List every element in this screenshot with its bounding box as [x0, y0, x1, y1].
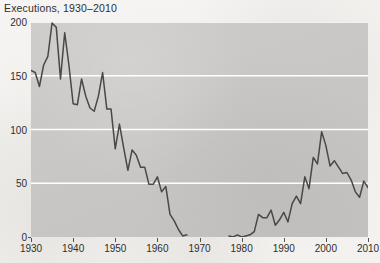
x-axis-tick-1990 [284, 238, 285, 242]
x-axis-label-1980: 1980 [231, 243, 253, 254]
x-axis-tick-2000 [326, 238, 327, 242]
x-axis-label-1970: 1970 [188, 243, 210, 254]
x-axis-label-2000: 2000 [315, 243, 337, 254]
y-axis-zero-tick [28, 237, 31, 238]
chart-title: Executions, 1930–2010 [4, 2, 117, 14]
x-axis-label-1990: 1990 [273, 243, 295, 254]
chart-page: Executions, 1930–2010 050100150200 19301… [0, 0, 380, 263]
x-axis-label-2010: 2010 [357, 243, 379, 254]
x-axis-label-1930: 1930 [20, 243, 42, 254]
x-axis-tick-2010 [368, 238, 369, 242]
x-axis-tick-1980 [242, 238, 243, 242]
x-axis-tick-1960 [157, 238, 158, 242]
y-axis-label-50: 50 [16, 178, 27, 189]
y-axis-label-200: 200 [10, 17, 27, 28]
y-axis-label-0: 0 [21, 232, 27, 243]
line-chart-svg [31, 22, 368, 237]
y-axis-label-100: 100 [10, 124, 27, 135]
x-axis-label-1940: 1940 [62, 243, 84, 254]
y-axis-labels: 050100150200 [0, 22, 27, 237]
x-axis-tick-1950 [115, 238, 116, 242]
series-line-segment-2 [229, 132, 368, 237]
y-axis-label-150: 150 [10, 70, 27, 81]
x-axis-tick-1970 [200, 238, 201, 242]
x-axis-tick-1930 [31, 238, 32, 242]
plot-area [31, 22, 368, 237]
x-axis-tick-1940 [73, 238, 74, 242]
x-axis-labels: 193019401950196019701980199020002010 [31, 243, 368, 257]
x-axis-label-1960: 1960 [146, 243, 168, 254]
x-axis-label-1950: 1950 [104, 243, 126, 254]
